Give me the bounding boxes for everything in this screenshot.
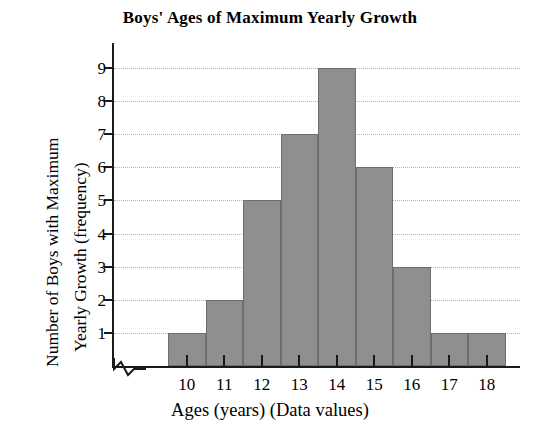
y-axis-title-line-1: Number of Boys with Maximum bbox=[42, 138, 63, 367]
x-tick-mark bbox=[486, 355, 488, 367]
x-tick-label: 12 bbox=[253, 375, 270, 395]
x-tick-mark bbox=[411, 355, 413, 367]
x-tick-label: 17 bbox=[441, 375, 458, 395]
histogram-figure: Boys' Ages of Maximum Yearly Growth Numb… bbox=[0, 0, 540, 440]
x-tick-label: 16 bbox=[403, 375, 420, 395]
y-tick-label: 6 bbox=[98, 159, 107, 176]
axis-break-icon bbox=[112, 358, 146, 378]
x-tick-mark bbox=[373, 355, 375, 367]
x-tick-mark bbox=[448, 355, 450, 367]
plot-area: 123456789 101112131415161718 bbox=[112, 43, 520, 368]
x-tick-label: 13 bbox=[291, 375, 308, 395]
x-tick-label: 15 bbox=[366, 375, 383, 395]
x-tick-label: 10 bbox=[178, 375, 195, 395]
y-tick-label: 4 bbox=[98, 225, 107, 242]
x-tick-mark bbox=[261, 355, 263, 367]
histogram-bar bbox=[393, 267, 431, 366]
page-title: Boys' Ages of Maximum Yearly Growth bbox=[0, 8, 540, 28]
x-tick-mark bbox=[336, 355, 338, 367]
y-tick-label: 9 bbox=[98, 60, 107, 77]
x-tick-label: 14 bbox=[328, 375, 345, 395]
y-axis-line bbox=[112, 43, 114, 368]
y-axis-title-line-2: Yearly Growth (frequency) bbox=[70, 162, 91, 352]
x-tick-label: 11 bbox=[216, 375, 232, 395]
histogram-bar bbox=[356, 167, 394, 366]
y-tick-label: 7 bbox=[98, 126, 107, 143]
gridline bbox=[114, 101, 520, 102]
histogram-bar bbox=[281, 134, 319, 366]
x-tick-mark bbox=[223, 355, 225, 367]
y-tick-label: 3 bbox=[98, 258, 107, 275]
x-axis-title: Ages (years) (Data values) bbox=[0, 400, 540, 421]
y-tick-label: 8 bbox=[98, 93, 107, 110]
x-tick-mark bbox=[298, 355, 300, 367]
x-tick-mark bbox=[186, 355, 188, 367]
x-tick-label: 18 bbox=[478, 375, 495, 395]
gridline bbox=[114, 68, 520, 69]
y-tick-label: 2 bbox=[98, 291, 107, 308]
y-tick-label: 1 bbox=[98, 324, 107, 341]
y-tick-label: 5 bbox=[98, 192, 107, 209]
histogram-bar bbox=[318, 68, 356, 366]
histogram-bar bbox=[243, 200, 281, 366]
x-axis-line bbox=[112, 366, 520, 368]
